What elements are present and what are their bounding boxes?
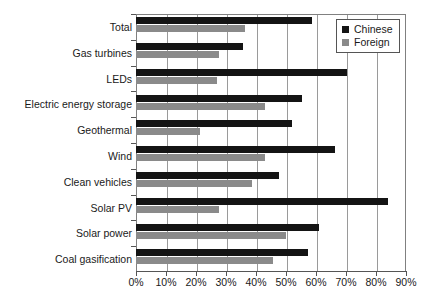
bar-chinese bbox=[136, 224, 319, 231]
bar-row bbox=[136, 91, 406, 117]
bar-chinese bbox=[136, 43, 243, 50]
y-tick-mark bbox=[131, 220, 136, 221]
category-label: Solar power bbox=[4, 227, 132, 239]
bar-foreign bbox=[136, 180, 252, 187]
legend-label-chinese: Chinese bbox=[354, 23, 393, 36]
bar-foreign bbox=[136, 103, 265, 110]
horizontal-bar-chart: TotalGas turbinesLEDsElectric energy sto… bbox=[0, 0, 426, 306]
bar-row bbox=[136, 143, 406, 169]
category-label: Coal gasification bbox=[4, 253, 132, 265]
y-tick-mark bbox=[131, 66, 136, 67]
category-label: Electric energy storage bbox=[4, 98, 132, 110]
bar-foreign bbox=[136, 257, 273, 264]
bar-foreign bbox=[136, 51, 219, 58]
bar-foreign bbox=[136, 25, 245, 32]
y-tick-mark bbox=[131, 91, 136, 92]
y-tick-mark bbox=[131, 195, 136, 196]
category-label: Geothermal bbox=[4, 124, 132, 136]
chart-legend: Chinese Foreign bbox=[336, 19, 400, 53]
bar-foreign bbox=[136, 77, 217, 84]
bar-chinese bbox=[136, 17, 312, 24]
category-label: Solar PV bbox=[4, 202, 132, 214]
bar-row bbox=[136, 169, 406, 195]
category-label: Wind bbox=[4, 150, 132, 162]
y-tick-mark bbox=[131, 14, 136, 15]
y-axis-category-labels: TotalGas turbinesLEDsElectric energy sto… bbox=[0, 14, 132, 272]
legend-label-foreign: Foreign bbox=[354, 36, 390, 49]
y-tick-mark bbox=[131, 117, 136, 118]
y-tick-mark bbox=[131, 246, 136, 247]
y-tick-mark bbox=[131, 143, 136, 144]
bar-chinese bbox=[136, 146, 335, 153]
bar-row bbox=[136, 195, 406, 221]
bar-chinese bbox=[136, 198, 388, 205]
y-tick-mark bbox=[131, 40, 136, 41]
bar-row bbox=[136, 220, 406, 246]
bar-foreign bbox=[136, 206, 219, 213]
bar-foreign bbox=[136, 128, 200, 135]
x-tick-label: 90% bbox=[386, 276, 426, 289]
bar-foreign bbox=[136, 232, 286, 239]
bar-chinese bbox=[136, 172, 279, 179]
legend-item-chinese: Chinese bbox=[342, 23, 393, 36]
bar-chinese bbox=[136, 249, 308, 256]
category-label: Clean vehicles bbox=[4, 176, 132, 188]
category-label: Gas turbines bbox=[4, 47, 132, 59]
gray-square-icon bbox=[342, 39, 349, 46]
bar-row bbox=[136, 246, 406, 272]
bar-foreign bbox=[136, 154, 265, 161]
legend-item-foreign: Foreign bbox=[342, 36, 393, 49]
y-tick-mark bbox=[131, 169, 136, 170]
x-axis-tick-labels: 0%10%20%30%40%50%60%70%80%90% bbox=[0, 276, 426, 292]
bar-row bbox=[136, 117, 406, 143]
bar-chinese bbox=[136, 69, 347, 76]
bar-row bbox=[136, 66, 406, 92]
category-label: Total bbox=[4, 21, 132, 33]
bar-chinese bbox=[136, 120, 292, 127]
black-square-icon bbox=[342, 26, 349, 33]
category-label: LEDs bbox=[4, 73, 132, 85]
bar-chinese bbox=[136, 95, 302, 102]
